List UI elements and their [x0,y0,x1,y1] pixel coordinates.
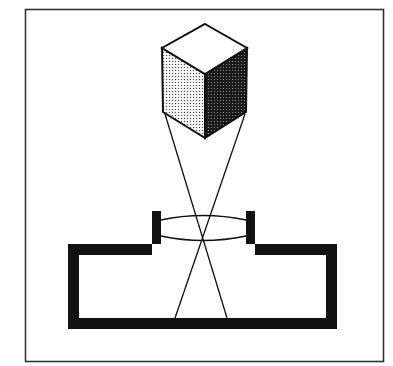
cube-object [162,24,247,138]
lens-projection-diagram [0,0,393,366]
camera-body [68,211,337,329]
